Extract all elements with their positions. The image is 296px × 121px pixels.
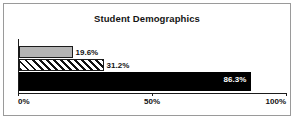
chart-frame: Student Demographics 19.6% 31.2% 86.3% 0… xyxy=(3,3,291,116)
chart-title: Student Demographics xyxy=(4,13,290,24)
x-axis-tick-label-50: 50% xyxy=(144,97,160,106)
bar-value-label-1: 31.2% xyxy=(107,61,130,70)
x-axis-tick-label-100: 100% xyxy=(266,97,286,106)
bar-0[interactable] xyxy=(19,46,73,58)
x-axis-tick-label-0: 0% xyxy=(18,97,30,106)
bar-value-label-0: 19.6% xyxy=(76,48,99,57)
bar-value-label-2: 86.3% xyxy=(224,75,247,84)
plot-area: 19.6% 31.2% 86.3% 0% 50% 100% xyxy=(15,36,287,98)
bar-1[interactable] xyxy=(19,59,104,71)
x-axis-tick-50 xyxy=(152,94,153,96)
bar-2[interactable] xyxy=(19,72,251,91)
x-axis-tick-100 xyxy=(286,94,287,96)
x-axis-tick-0 xyxy=(18,94,19,96)
